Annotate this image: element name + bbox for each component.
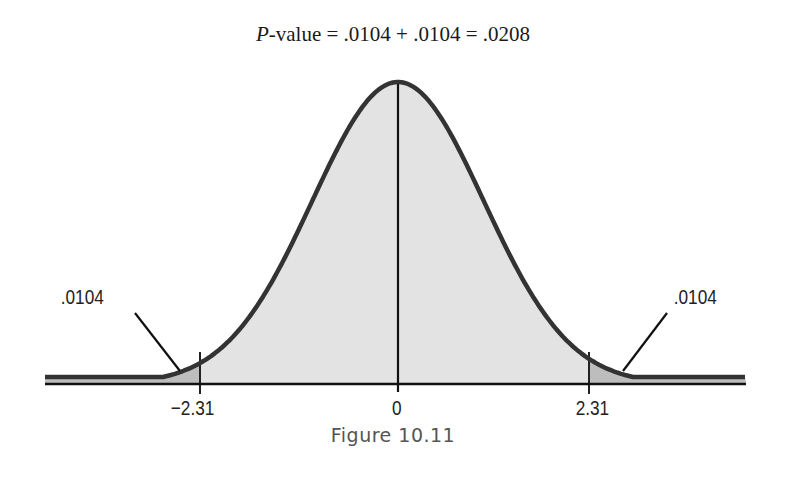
right-tail-label: .0104 [674,285,717,309]
central-region [45,82,746,384]
right-pointer-line [623,313,667,371]
left-tail-label: .0104 [61,285,104,309]
figure-caption: Figure 10.11 [0,424,786,446]
tick-label-right: 2.31 [576,396,610,420]
tick-label-left: −2.31 [171,396,215,420]
left-pointer-line [135,313,180,371]
tick-label-center: 0 [392,396,402,420]
